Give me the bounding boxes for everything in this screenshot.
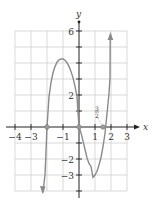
curve-down-arrow-icon	[40, 186, 46, 194]
fraction-leader-line	[98, 118, 102, 125]
y-tick-label: −2	[61, 155, 74, 165]
x-tick-label: −3	[24, 132, 38, 142]
x-tick-label: −4	[8, 132, 22, 142]
y-axis-end-dot	[78, 21, 81, 24]
fraction-denominator: 2	[95, 112, 99, 119]
y-tick-label: 6	[68, 27, 74, 37]
x-tick-label: 2	[108, 132, 114, 142]
x-axis-label: x	[143, 122, 148, 132]
x-tick-label: −1	[56, 132, 69, 142]
y-axis-label: y	[75, 9, 82, 19]
curve-up-arrow-icon	[108, 32, 114, 40]
zero-point-0	[77, 125, 82, 130]
y-tick-label: 2	[68, 91, 74, 101]
x-tick-label: 3	[124, 132, 130, 142]
x-axis-arrow-icon	[134, 125, 140, 130]
fraction-numerator: 3	[95, 105, 99, 112]
x-tick-label: 1	[92, 132, 98, 142]
zero-point-3-halves	[101, 125, 106, 130]
y-tick-label: −3	[61, 171, 75, 181]
cubic-curve	[43, 38, 110, 193]
cubic-function-graph: 3 2 −4 −3 −1 1 2 3 6 2 −2 −3 x y	[0, 0, 156, 206]
zero-point-minus-2	[45, 125, 50, 130]
